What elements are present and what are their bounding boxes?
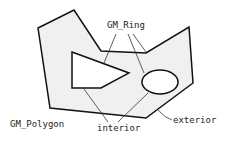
label-gm-polygon: GM_Polygon <box>10 120 64 129</box>
leader-exterior <box>158 110 172 120</box>
label-interior: interior <box>97 124 140 133</box>
leader-ring-to-exterior <box>133 34 146 52</box>
label-exterior: exterior <box>173 116 216 125</box>
interior-ring-ellipse-hole <box>142 70 178 94</box>
diagram-canvas: GM_Ring GM_Polygon interior exterior <box>0 0 228 141</box>
label-gm-ring: GM_Ring <box>107 21 145 30</box>
